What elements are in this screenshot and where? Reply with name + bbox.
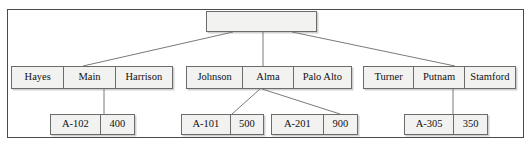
branch-node-left[interactable]: Hayes Main Harrison xyxy=(11,66,173,89)
connector-root-to-right-branch xyxy=(292,32,455,66)
record-balance-a-201: 900 xyxy=(323,115,357,134)
record-balance-a-102: 400 xyxy=(100,115,134,134)
branch-cell-harrison[interactable]: Harrison xyxy=(115,67,172,88)
record-a-305[interactable]: A-305 350 xyxy=(404,114,488,135)
root-node[interactable] xyxy=(206,11,317,32)
branch-cell-main[interactable]: Main xyxy=(63,67,114,88)
b-tree-index-figure: Hayes Main Harrison Johnson Alma Palo Al… xyxy=(0,0,532,145)
branch-cell-palo-alto[interactable]: Palo Alto xyxy=(293,67,351,88)
connector-alma-to-record-a-101 xyxy=(232,89,260,114)
branch-cell-johnson[interactable]: Johnson xyxy=(187,67,242,88)
branch-cell-stamford[interactable]: Stamford xyxy=(464,67,515,88)
record-balance-a-101: 500 xyxy=(230,115,263,134)
connector-root-to-left-branch xyxy=(83,32,233,66)
record-number-a-101: A-101 xyxy=(182,115,230,134)
branch-cell-turner[interactable]: Turner xyxy=(364,67,413,88)
connector-alma-to-record-a-201 xyxy=(262,89,340,114)
branch-node-right[interactable]: Turner Putnam Stamford xyxy=(363,66,516,89)
record-a-102[interactable]: A-102 400 xyxy=(50,114,135,135)
record-number-a-201: A-201 xyxy=(272,115,323,134)
branch-cell-putnam[interactable]: Putnam xyxy=(413,67,463,88)
record-a-201[interactable]: A-201 900 xyxy=(271,114,358,135)
branch-cell-hayes[interactable]: Hayes xyxy=(12,67,63,88)
record-a-101[interactable]: A-101 500 xyxy=(181,114,264,135)
record-number-a-102: A-102 xyxy=(51,115,100,134)
root-node-cell-0 xyxy=(207,12,316,31)
record-number-a-305: A-305 xyxy=(405,115,453,134)
branch-cell-alma[interactable]: Alma xyxy=(242,67,292,88)
record-balance-a-305: 350 xyxy=(453,115,487,134)
branch-node-middle[interactable]: Johnson Alma Palo Alto xyxy=(186,66,352,89)
